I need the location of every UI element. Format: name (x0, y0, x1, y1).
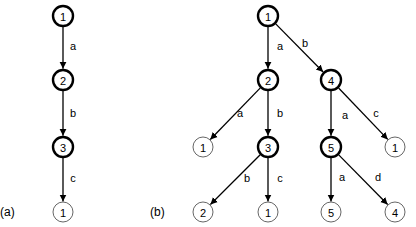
node-label: 2 (265, 75, 271, 87)
state-node: 1 (53, 6, 73, 26)
edge-label: c (373, 107, 379, 119)
node-label: 1 (60, 11, 66, 23)
node-label: 1 (60, 207, 66, 219)
edge-label: a (70, 40, 77, 52)
state-node: 1 (258, 6, 278, 26)
edge-label: b (302, 37, 308, 49)
state-node: 2 (258, 70, 278, 90)
edge-label: b (277, 107, 283, 119)
node-label: 1 (392, 142, 398, 154)
edge-label: a (342, 109, 349, 121)
edges-layer: abcababacbcad (63, 24, 388, 205)
leaf-node: 1 (193, 137, 213, 157)
leaf-node: 4 (385, 202, 405, 222)
edge-label: c (70, 172, 76, 184)
edge-label: a (277, 40, 284, 52)
state-node: 5 (321, 137, 341, 157)
leaf-node: 1 (53, 202, 73, 222)
leaf-node: 1 (385, 137, 405, 157)
node-label: 2 (60, 75, 66, 87)
edge-label: d (375, 171, 381, 183)
tree-diagram: abcababacbcad 123112413512154 (a)(b) (0, 0, 416, 227)
node-label: 1 (265, 11, 271, 23)
node-label: 4 (392, 207, 398, 219)
node-label: 1 (200, 142, 206, 154)
edge-label: b (70, 107, 76, 119)
edge-label: c (277, 172, 283, 184)
node-label: 4 (328, 75, 334, 87)
edge-label: b (244, 172, 250, 184)
leaf-node: 2 (193, 202, 213, 222)
nodes-layer: 123112413512154 (53, 6, 405, 222)
panel-label-a: (a) (0, 205, 15, 219)
edge-label: a (237, 107, 244, 119)
edge-arrow (210, 155, 260, 205)
node-label: 5 (328, 142, 334, 154)
edge-label: a (339, 171, 346, 183)
edge-arrow (210, 88, 260, 140)
state-node: 3 (258, 137, 278, 157)
leaf-node: 5 (321, 202, 341, 222)
node-label: 2 (200, 207, 206, 219)
node-label: 1 (265, 207, 271, 219)
node-label: 3 (60, 142, 66, 154)
panel-labels: (a)(b) (0, 205, 165, 219)
node-label: 3 (265, 142, 271, 154)
node-label: 5 (328, 207, 334, 219)
state-node: 2 (53, 70, 73, 90)
state-node: 3 (53, 137, 73, 157)
leaf-node: 1 (258, 202, 278, 222)
state-node: 4 (321, 70, 341, 90)
panel-label-b: (b) (150, 205, 165, 219)
